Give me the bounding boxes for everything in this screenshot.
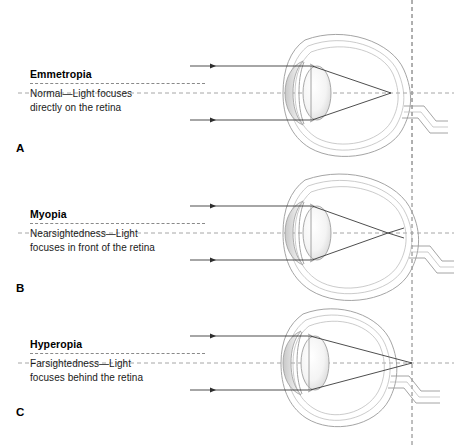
caption-divider	[30, 223, 205, 224]
diverging-ray-lower	[388, 233, 404, 238]
arrowhead-upper	[210, 63, 216, 68]
optic-nerve-upper	[391, 376, 440, 391]
caption-emmetropia: Emmetropia Normal—Light focuses directly…	[30, 68, 205, 114]
optic-nerve-lower	[402, 118, 448, 133]
caption-hyperopia: Hyperopia Farsightedness—Light focuses b…	[30, 338, 205, 384]
panel-letter-c: C	[16, 406, 24, 418]
arrowhead-lower	[210, 117, 216, 122]
caption-body-line1: Farsightedness—Light	[30, 357, 205, 371]
optic-nerve-mid	[404, 112, 448, 127]
caption-title: Myopia	[30, 208, 205, 221]
panel-letter-b: B	[16, 282, 24, 294]
panel-emmetropia: Emmetropia Normal—Light focuses directly…	[0, 0, 454, 170]
arrowhead-upper	[210, 203, 216, 208]
caption-divider	[30, 353, 205, 354]
sclera-outline	[281, 309, 397, 427]
caption-title: Hyperopia	[30, 338, 205, 351]
arrowhead-upper	[210, 333, 216, 338]
caption-body-line1: Normal—Light focuses	[30, 87, 205, 101]
diverging-ray-upper	[388, 228, 404, 233]
caption-title: Emmetropia	[30, 68, 205, 81]
caption-body-line2: focuses in front of the retina	[30, 241, 205, 255]
lens	[301, 336, 329, 390]
caption-body-line2: directly on the retina	[30, 101, 205, 115]
optic-nerve-mid	[390, 382, 440, 397]
panel-letter-a: A	[16, 142, 24, 154]
arrowhead-lower	[210, 257, 216, 262]
lens	[303, 66, 331, 120]
panel-hyperopia: Hyperopia Farsightedness—Light focuses b…	[0, 300, 454, 448]
caption-body-line2: focuses behind the retina	[30, 371, 205, 385]
caption-divider	[30, 83, 205, 84]
eye-refraction-figure: Emmetropia Normal—Light focuses directly…	[0, 0, 454, 448]
sclera-outline	[283, 34, 411, 156]
arrowhead-lower	[210, 387, 216, 392]
lens	[303, 206, 331, 260]
panel-myopia: Myopia Nearsightedness—Light focuses in …	[0, 170, 454, 300]
caption-body-line1: Nearsightedness—Light	[30, 227, 205, 241]
caption-myopia: Myopia Nearsightedness—Light focuses in …	[30, 208, 205, 254]
